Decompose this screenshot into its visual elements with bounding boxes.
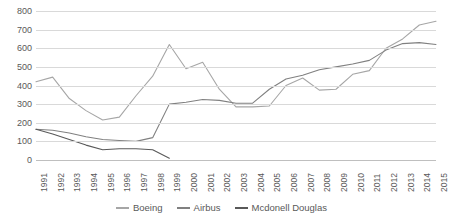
gridline — [36, 141, 436, 142]
legend-color-swatch — [177, 207, 190, 209]
y-axis-tick-label: 700 — [17, 25, 32, 34]
x-axis-tick-label: 1995 — [107, 162, 116, 192]
legend-color-swatch — [235, 207, 248, 209]
x-axis-tick-label: 1999 — [173, 162, 182, 192]
x-axis-tick-label: 2009 — [340, 162, 349, 192]
y-axis-tick-label: 300 — [17, 100, 32, 109]
x-axis-line — [36, 160, 436, 161]
x-axis-tick-label: 2003 — [240, 162, 249, 192]
legend-color-swatch — [116, 207, 129, 209]
y-axis: 0100200300400500600700800 — [0, 0, 36, 160]
legend-item-airbus[interactable]: Airbus — [177, 203, 221, 213]
legend-item-boeing[interactable]: Boeing — [116, 203, 163, 213]
x-axis-tick-label: 2002 — [223, 162, 232, 192]
gridline — [36, 86, 436, 87]
gridline — [36, 67, 436, 68]
legend-label: Boeing — [133, 203, 163, 213]
x-axis-tick-label: 1991 — [40, 162, 49, 192]
gridline — [36, 123, 436, 124]
legend-label: Airbus — [194, 203, 221, 213]
x-axis-tick-label: 2005 — [273, 162, 282, 192]
x-axis-tick-label: 2015 — [440, 162, 449, 192]
gridline — [36, 104, 436, 105]
chart-legend: BoeingAirbusMcdonell Douglas — [0, 198, 443, 218]
gridline — [36, 11, 436, 12]
x-axis-tick-label: 2000 — [190, 162, 199, 192]
y-axis-tick-label: 400 — [17, 81, 32, 90]
gridline — [36, 48, 436, 49]
y-axis-tick-label: 0 — [27, 156, 32, 165]
x-axis-tick-label: 2008 — [323, 162, 332, 192]
legend-item-mcdonell-douglas[interactable]: Mcdonell Douglas — [235, 203, 328, 213]
y-axis-tick-label: 200 — [17, 118, 32, 127]
x-axis-tick-label: 2001 — [207, 162, 216, 192]
gridline — [36, 30, 436, 31]
x-axis-tick-label: 2006 — [290, 162, 299, 192]
y-axis-tick-label: 800 — [17, 7, 32, 16]
x-axis-tick-label: 2014 — [423, 162, 432, 192]
x-axis-tick-label: 1994 — [90, 162, 99, 192]
x-axis-tick-label: 2004 — [257, 162, 266, 192]
x-axis-tick-label: 1997 — [140, 162, 149, 192]
y-axis-tick-label: 100 — [17, 137, 32, 146]
x-axis-tick-label: 1998 — [157, 162, 166, 192]
x-axis-tick-label: 1993 — [73, 162, 82, 192]
series-line-mcdonell-douglas — [36, 129, 169, 158]
x-axis-tick-label: 2013 — [407, 162, 416, 192]
x-axis-tick-label: 2010 — [357, 162, 366, 192]
legend-label: Mcdonell Douglas — [252, 203, 328, 213]
x-axis: 1991199219931994199519961997199819992000… — [36, 162, 436, 194]
series-line-airbus — [36, 43, 436, 142]
plot-area — [36, 11, 436, 160]
series-line-boeing — [36, 21, 436, 120]
y-axis-tick-label: 600 — [17, 44, 32, 53]
x-axis-tick-label: 2012 — [390, 162, 399, 192]
x-axis-tick-label: 1996 — [123, 162, 132, 192]
x-axis-tick-label: 2011 — [373, 162, 382, 192]
x-axis-tick-label: 2007 — [307, 162, 316, 192]
y-axis-tick-label: 500 — [17, 62, 32, 71]
x-axis-tick-label: 1992 — [57, 162, 66, 192]
